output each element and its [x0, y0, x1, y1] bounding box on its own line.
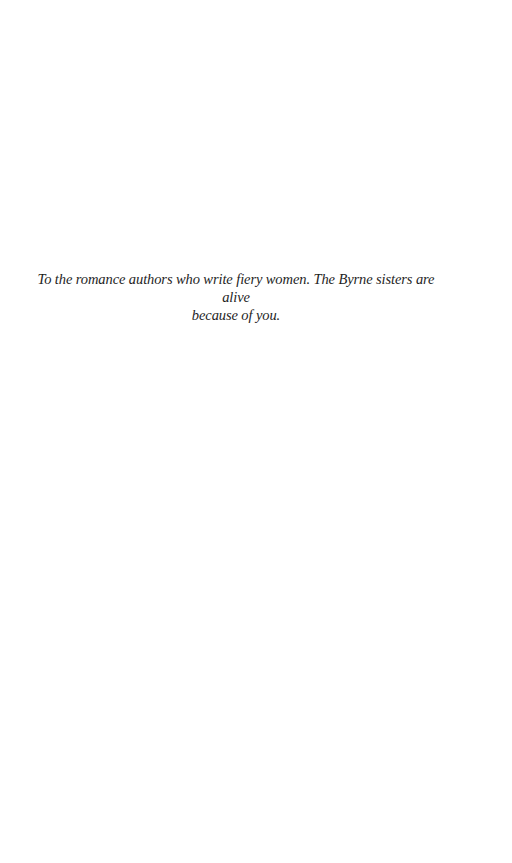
dedication-line-2: because of you. [30, 306, 442, 324]
dedication-line-1: To the romance authors who write fiery w… [30, 270, 442, 306]
dedication-text: To the romance authors who write fiery w… [30, 270, 442, 324]
book-page: To the romance authors who write fiery w… [0, 0, 512, 863]
